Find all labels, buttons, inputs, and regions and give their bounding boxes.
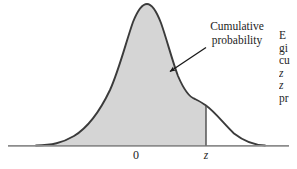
- shaded-cumulative-area-edge: [195, 99, 206, 146]
- cumulative-probability-annotation: Cumulative probability: [196, 20, 278, 47]
- axis-tick-label-zero: 0: [128, 148, 144, 163]
- side-text-line: E: [279, 29, 297, 42]
- side-text-line: z: [279, 67, 297, 80]
- annotation-line-1: Cumulative: [196, 20, 278, 34]
- side-text-line: z: [279, 79, 297, 92]
- side-text-line: cu: [279, 54, 297, 67]
- side-text-line: pr: [279, 92, 297, 105]
- axis-tick-label-z: z: [199, 149, 213, 161]
- side-text-line: gi: [279, 42, 297, 55]
- normal-distribution-figure: Cumulative probability 0 z E gi cu z z p…: [0, 0, 297, 169]
- annotation-line-2: probability: [196, 34, 278, 48]
- annotation-arrow: [170, 48, 206, 72]
- clipped-body-text-column: E gi cu z z pr: [279, 29, 297, 105]
